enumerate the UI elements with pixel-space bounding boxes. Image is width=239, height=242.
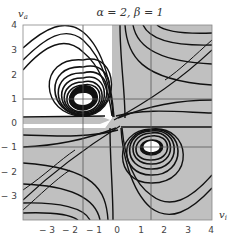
svg-text:4: 4 xyxy=(208,225,214,235)
y-axis-ticks: 4 3 2 1 0 − 1 − 2 − 3 xyxy=(1,20,17,201)
svg-text:2: 2 xyxy=(11,70,17,80)
svg-text:− 3: − 3 xyxy=(1,191,17,201)
svg-text:− 3: − 3 xyxy=(39,225,55,235)
svg-text:1: 1 xyxy=(138,225,144,235)
svg-text:2: 2 xyxy=(161,225,167,235)
svg-text:− 2: − 2 xyxy=(1,167,17,177)
svg-text:− 2: − 2 xyxy=(62,225,78,235)
svg-text:0: 0 xyxy=(114,225,120,235)
svg-text:3: 3 xyxy=(11,45,17,55)
x-axis-ticks: − 3 − 2 − 1 0 1 2 3 4 xyxy=(39,225,214,235)
svg-text:0: 0 xyxy=(11,118,17,128)
chart-title: α = 2, β = 1 xyxy=(96,6,163,19)
y-axis-label: va xyxy=(18,8,28,21)
svg-text:3: 3 xyxy=(185,225,191,235)
svg-text:4: 4 xyxy=(11,20,17,30)
x-axis-label: vi xyxy=(219,209,227,222)
svg-text:− 1: − 1 xyxy=(1,142,17,152)
svg-text:− 1: − 1 xyxy=(86,225,102,235)
svg-text:1: 1 xyxy=(11,94,17,104)
plot-area xyxy=(23,25,212,220)
phase-portrait-chart: α = 2, β = 1 va vi xyxy=(0,0,239,242)
